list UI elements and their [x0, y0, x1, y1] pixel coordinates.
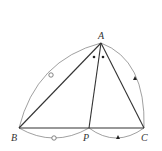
label-B: B: [11, 132, 17, 143]
arc-PC: [89, 128, 144, 138]
label-A: A: [97, 30, 105, 41]
label-P: P: [82, 132, 89, 143]
triangle-marker-arc-PC: [116, 135, 120, 139]
angle-dot-PAC: [102, 56, 105, 59]
segment-AC: [101, 43, 144, 128]
angle-dot-BAP: [93, 56, 96, 59]
geometry-diagram: A B P C: [0, 0, 162, 151]
segment-AP: [89, 43, 101, 128]
open-circle-marker-arc-BP: [52, 136, 56, 140]
label-C: C: [141, 132, 148, 143]
segment-AB: [19, 43, 101, 128]
open-circle-marker-arc-BA: [49, 73, 53, 77]
